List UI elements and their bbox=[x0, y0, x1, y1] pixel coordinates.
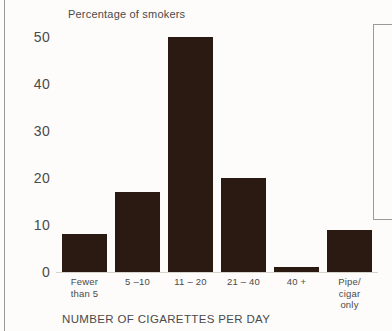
x-tick-label-line: only bbox=[323, 299, 376, 311]
x-tick-label: 11 – 20 bbox=[164, 276, 217, 288]
x-tick-label: Fewerthan 5 bbox=[58, 276, 111, 299]
x-tick-label: 5 –10 bbox=[111, 276, 164, 288]
x-tick-label: 40 + bbox=[270, 276, 323, 288]
y-tick-label: 10 bbox=[16, 217, 50, 233]
y-tick-label: 30 bbox=[16, 123, 50, 139]
bar bbox=[168, 37, 213, 272]
x-tick-label: 21 – 40 bbox=[217, 276, 270, 288]
y-tick-label: 40 bbox=[16, 76, 50, 92]
x-tick-label-line: 21 – 40 bbox=[217, 276, 270, 288]
y-tick-label: 0 bbox=[16, 264, 50, 280]
x-tick-label-line: 40 + bbox=[270, 276, 323, 288]
x-tick-label-line: 11 – 20 bbox=[164, 276, 217, 288]
y-tick-label: 50 bbox=[16, 29, 50, 45]
chart-figure: Percentage of smokers 01020304050 Fewert… bbox=[0, 0, 392, 331]
x-tick-label-line: Fewer bbox=[58, 276, 111, 288]
page-rule-left bbox=[4, 0, 5, 331]
bar bbox=[327, 230, 372, 272]
x-tick-label: Pipe/cigaronly bbox=[323, 276, 376, 311]
bar bbox=[62, 234, 107, 272]
x-axis-tick-labels: Fewerthan 55 –1011 – 2021 – 4040 +Pipe/c… bbox=[58, 276, 376, 318]
x-tick-label-line: 5 –10 bbox=[111, 276, 164, 288]
x-tick-label-line: than 5 bbox=[58, 288, 111, 300]
y-axis: 01020304050 bbox=[12, 0, 50, 331]
x-tick-label-line: Pipe/ bbox=[323, 276, 376, 288]
x-tick-label-line: cigar bbox=[323, 288, 376, 300]
bar bbox=[221, 178, 266, 272]
x-axis-title: NUMBER OF CIGARETTES PER DAY bbox=[62, 313, 270, 325]
bar bbox=[115, 192, 160, 272]
bar bbox=[274, 267, 319, 272]
y-tick-label: 20 bbox=[16, 170, 50, 186]
